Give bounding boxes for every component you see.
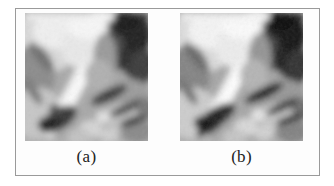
figure-panel-a <box>25 13 148 141</box>
grayscale-image-panel-a <box>25 13 148 141</box>
grayscale-image-panel-b <box>180 13 303 141</box>
panel-a-caption: (a) <box>25 147 148 167</box>
figure-frame: (a) <box>15 8 320 176</box>
figure-panel-b <box>180 13 303 141</box>
panel-b-caption: (b) <box>180 147 303 167</box>
